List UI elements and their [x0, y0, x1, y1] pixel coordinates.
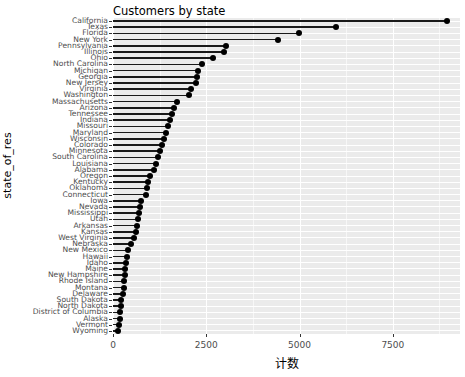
x-axis-title: 计数: [113, 354, 460, 371]
lollipop-point: [138, 198, 144, 204]
lollipop-segment: [113, 26, 336, 28]
lollipop-segment: [113, 138, 164, 140]
y-tick-mark: [109, 170, 112, 171]
y-tick-mark: [109, 40, 112, 41]
lollipop-point: [117, 316, 123, 322]
lollipop-point: [122, 272, 128, 278]
y-tick-mark: [109, 226, 112, 227]
gridline-major-y: [113, 206, 460, 207]
gridline-major-y: [113, 306, 460, 307]
lollipop-segment: [113, 20, 447, 22]
gridline-major-y: [113, 225, 460, 226]
gridline-major-y: [113, 200, 460, 201]
gridline-major-y: [113, 163, 460, 164]
lollipop-segment: [113, 169, 154, 171]
lollipop-segment: [113, 157, 158, 159]
gridline-major-y: [113, 176, 460, 177]
y-tick-mark: [109, 58, 112, 59]
y-tick-mark: [109, 83, 112, 84]
lollipop-point: [133, 229, 139, 235]
y-tick-mark: [109, 207, 112, 208]
lollipop-point: [163, 130, 169, 136]
lollipop-point: [128, 241, 134, 247]
lollipop-point: [296, 30, 302, 36]
gridline-major-y: [113, 256, 460, 257]
lollipop-segment: [113, 88, 191, 90]
lollipop-segment: [113, 219, 138, 221]
lollipop-point: [121, 278, 127, 284]
gridline-major-y: [113, 194, 460, 195]
lollipop-point: [143, 192, 149, 198]
y-tick-mark: [109, 232, 112, 233]
y-tick-mark: [109, 325, 112, 326]
lollipop-point: [122, 266, 128, 272]
lollipop-point: [223, 43, 229, 49]
gridline-major-y: [113, 287, 460, 288]
lollipop-point: [125, 247, 131, 253]
y-axis-title: state_of_res: [0, 0, 14, 330]
y-tick-mark: [109, 95, 112, 96]
lollipop-segment: [113, 175, 150, 177]
gridline-major-y: [113, 312, 460, 313]
lollipop-point: [118, 297, 124, 303]
lollipop-segment: [113, 126, 168, 128]
lollipop-point: [118, 303, 124, 309]
lollipop-segment: [113, 132, 166, 134]
y-tick-mark: [109, 120, 112, 121]
x-tick-label: 0: [110, 340, 116, 350]
lollipop-segment: [113, 64, 202, 66]
gridline-major-y: [113, 151, 460, 152]
y-tick-mark: [109, 182, 112, 183]
y-tick-mark: [109, 114, 112, 115]
gridline-major-y: [113, 299, 460, 300]
y-tick-mark: [109, 46, 112, 47]
gridline-major-y: [113, 318, 460, 319]
y-tick-mark: [109, 108, 112, 109]
lollipop-point: [174, 99, 180, 105]
y-tick-mark: [109, 250, 112, 251]
lollipop-point: [135, 216, 141, 222]
lollipop-point: [144, 185, 150, 191]
y-tick-mark: [109, 27, 112, 28]
y-tick-mark: [109, 89, 112, 90]
x-tick-mark: [206, 334, 207, 337]
lollipop-segment: [113, 57, 213, 59]
y-tick-mark: [109, 275, 112, 276]
y-tick-mark: [109, 126, 112, 127]
y-tick-mark: [109, 238, 112, 239]
lollipop-point: [167, 117, 173, 123]
lollipop-segment: [113, 119, 170, 121]
y-tick-mark: [109, 331, 112, 332]
lollipop-segment: [113, 39, 278, 41]
lollipop-segment: [113, 212, 139, 214]
chart-root: Customers by state state_of_res 计数 Calif…: [0, 0, 465, 377]
x-tick-mark: [300, 334, 301, 337]
lollipop-segment: [113, 225, 137, 227]
lollipop-segment: [113, 82, 196, 84]
lollipop-point: [193, 80, 199, 86]
y-tick-mark: [109, 312, 112, 313]
gridline-major-y: [113, 231, 460, 232]
lollipop-segment: [113, 45, 226, 47]
gridline-major-y: [113, 275, 460, 276]
lollipop-point: [169, 111, 175, 117]
lollipop-point: [186, 92, 192, 98]
lollipop-point: [444, 18, 450, 24]
y-tick-mark: [109, 281, 112, 282]
y-tick-mark: [109, 71, 112, 72]
lollipop-segment: [113, 206, 140, 208]
gridline-major-y: [113, 182, 460, 183]
lollipop-segment: [113, 101, 177, 103]
lollipop-point: [117, 309, 123, 315]
lollipop-point: [195, 68, 201, 74]
lollipop-segment: [113, 95, 189, 97]
y-tick-mark: [109, 157, 112, 158]
y-tick-mark: [109, 319, 112, 320]
y-tick-mark: [109, 195, 112, 196]
lollipop-segment: [113, 76, 197, 78]
lollipop-point: [153, 161, 159, 167]
lollipop-point: [123, 260, 129, 266]
x-tick-mark: [113, 334, 114, 337]
lollipop-point: [171, 105, 177, 111]
lollipop-point: [275, 37, 281, 43]
